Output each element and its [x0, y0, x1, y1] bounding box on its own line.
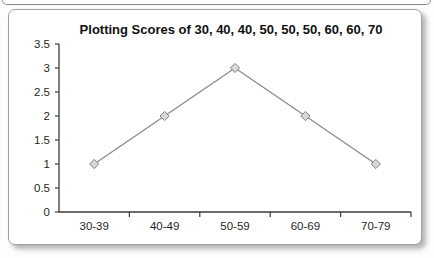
- data-point-marker: [230, 63, 239, 72]
- frequency-line-chart: 00.511.522.533.530-3940-4950-5960-6970-7…: [9, 38, 421, 243]
- y-tick-label: 1.5: [34, 134, 50, 146]
- data-point-marker: [371, 159, 380, 168]
- chart-title: Plotting Scores of 30, 40, 40, 50, 50, 5…: [51, 22, 411, 37]
- y-tick-label: 3.5: [34, 38, 50, 50]
- y-tick-label: 3: [44, 62, 50, 74]
- x-tick-label: 50-59: [220, 220, 249, 232]
- y-tick-label: 0.5: [34, 182, 50, 194]
- cropped-box-bottom-edge: [2, 0, 431, 5]
- y-tick-label: 2.5: [34, 86, 50, 98]
- x-tick-label: 30-39: [79, 220, 108, 232]
- y-tick-label: 1: [44, 158, 50, 170]
- x-tick-label: 60-69: [291, 220, 320, 232]
- x-tick-label: 70-79: [361, 220, 390, 232]
- data-line: [94, 68, 376, 164]
- data-point-marker: [160, 111, 169, 120]
- y-tick-label: 0: [44, 206, 50, 218]
- data-point-marker: [301, 111, 310, 120]
- y-tick-label: 2: [44, 110, 50, 122]
- x-tick-label: 40-49: [150, 220, 179, 232]
- data-point-marker: [90, 159, 99, 168]
- scanned-page-background: Plotting Scores of 30, 40, 40, 50, 50, 5…: [0, 0, 434, 258]
- chart-card: Plotting Scores of 30, 40, 40, 50, 50, 5…: [8, 9, 422, 245]
